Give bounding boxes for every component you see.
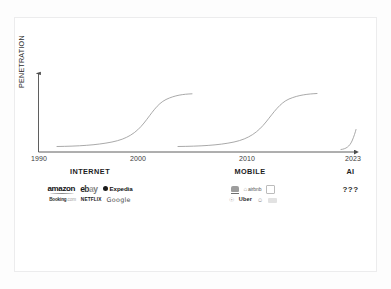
logo-row-mobile-2: ☉ Uber ☺ [222,195,284,205]
uber-logo: Uber [239,197,252,203]
era-label-ai: AI [333,167,368,176]
ai-unknown-marker: ??? [333,185,368,194]
faded-logo [268,198,277,203]
era-label-mobile: MOBILE [215,167,285,176]
logo-group-mobile: ⌂ airbnb ☉ Uber ☺ [222,184,284,205]
logo-row-internet-1: amazon ebay Expedia [41,184,139,194]
airbnb-logo-text: airbnb [248,187,261,192]
google-logo: Google [107,197,131,203]
y-axis-label: PENETRATION [17,12,29,88]
era-label-internet: INTERNET [45,167,135,176]
booking-logo: Booking.com [49,198,76,203]
x-tick-2000: 2000 [130,155,146,162]
netflix-logo: NETFLIX [81,198,102,203]
ebay-logo: ebay [80,185,97,194]
logo-row-mobile-1: ⌂ airbnb [222,184,284,194]
expedia-logo: Expedia [103,186,133,192]
logo-group-internet: amazon ebay Expedia Booking.com NETFLIX … [41,184,139,205]
expedia-logo-text: Expedia [110,186,133,192]
booking-logo-text: Booking [49,198,66,203]
airbnb-mark-icon: ⌂ [244,186,248,192]
logo-row-internet-2: Booking.com NETFLIX Google [41,195,139,205]
airbnb-logo: ⌂ airbnb [244,186,262,192]
x-tick-2023: 2023 [345,155,361,162]
snapchat-logo: ☉ [229,197,234,203]
amazon-logo: amazon [47,185,75,193]
slide-card [14,17,377,272]
x-tick-2010: 2010 [239,155,255,162]
x-tick-1990: 1990 [31,155,47,162]
booking-logo-suffix: .com [66,198,75,203]
expedia-dot-icon [103,186,108,191]
instagram-logo [231,186,239,192]
slide-canvas: PENETRATION 1990 2000 2010 2023 INTERNET… [0,0,391,289]
app-tile-logo [266,185,275,194]
whatsapp-logo: ☺ [257,197,263,203]
